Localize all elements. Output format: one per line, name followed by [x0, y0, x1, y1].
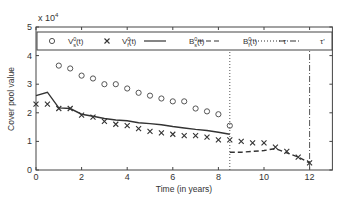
x-marker	[125, 123, 130, 128]
x-marker	[113, 122, 118, 127]
circle-marker	[125, 86, 130, 91]
circle-marker	[193, 106, 198, 111]
legend-label: τ'	[320, 37, 325, 46]
circle-marker	[102, 82, 107, 87]
circle-marker	[216, 112, 221, 117]
x-marker	[148, 129, 153, 134]
x-tick-label: 2	[79, 172, 84, 182]
x-marker	[216, 137, 221, 142]
x-marker	[250, 140, 255, 145]
circle-marker	[79, 73, 84, 78]
y-tick-label: 5	[27, 22, 32, 32]
x-marker	[136, 126, 141, 131]
circle-marker	[182, 99, 187, 104]
x-marker	[205, 135, 210, 140]
y-tick-label: 2	[27, 108, 32, 118]
series-b-f-0-t-	[230, 149, 310, 163]
x-marker	[262, 140, 267, 145]
y-tick-label: 0	[27, 165, 32, 175]
x-tick-label: 10	[259, 172, 269, 182]
series-v-s-0-t-	[56, 63, 232, 128]
y-axis-label: Cover pool value	[6, 67, 16, 131]
legend: V0s(t)V0f(t)B0s(t)B0f(t)ττ'	[37, 32, 332, 50]
x-tick-label: 0	[33, 172, 38, 182]
x-marker	[193, 133, 198, 138]
x-tick-label: 12	[305, 172, 315, 182]
y-axis-multiplier: x 104	[38, 12, 59, 23]
x-marker	[159, 130, 164, 135]
circle-marker	[147, 93, 152, 98]
y-tick-label: 1	[27, 136, 32, 146]
x-marker	[239, 139, 244, 144]
circle-marker	[56, 63, 61, 68]
chart: 024681012 012345 V0s(t)V0f(t)B0s(t)B0f(t…	[0, 0, 348, 209]
legend-label: V0s(t)	[68, 36, 84, 48]
circle-marker	[170, 99, 175, 104]
circle-marker	[159, 96, 164, 101]
y-tick-label: 3	[27, 79, 32, 89]
x-marker	[102, 119, 107, 124]
legend-label: V0f(t)	[122, 36, 137, 48]
series-b-s-0-t-	[36, 92, 230, 134]
data-series	[34, 44, 313, 170]
circle-marker	[68, 66, 73, 71]
x-marker	[170, 132, 175, 137]
x-tick-label: 4	[125, 172, 130, 182]
y-tick-label: 4	[27, 51, 32, 61]
line-path	[36, 92, 230, 134]
x-tick-label: 6	[170, 172, 175, 182]
x-marker	[182, 133, 187, 138]
circle-marker	[204, 109, 209, 114]
x-axis-label: Time (in years)	[156, 184, 213, 194]
circle-marker	[113, 82, 118, 87]
circle-marker	[90, 76, 95, 81]
x-marker	[45, 102, 50, 107]
circle-marker	[136, 90, 141, 95]
line-path	[230, 149, 310, 163]
x-tick-label: 8	[216, 172, 221, 182]
